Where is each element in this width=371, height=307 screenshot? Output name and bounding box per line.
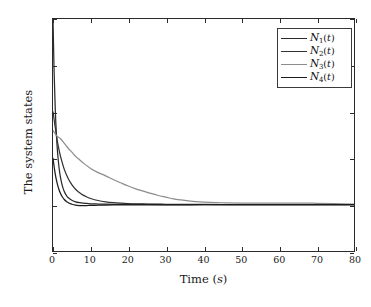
x-axis-title: Time (s) — [52, 272, 355, 286]
x-axis-title-text: Time ( — [180, 272, 217, 286]
legend-item-3: N3(t) — [281, 59, 347, 71]
legend-item-4: N4(t) — [281, 72, 347, 84]
legend-swatch-line-3 — [281, 64, 307, 65]
legend-swatch-line-2 — [281, 51, 307, 52]
legend-item-2: N2(t) — [281, 46, 347, 58]
legend: N1(t)N2(t)N3(t)N4(t) — [277, 28, 352, 88]
legend-item-1: N1(t) — [281, 33, 347, 45]
x-axis-title-close: ) — [223, 272, 228, 286]
legend-label-4: N4(t) — [310, 71, 335, 84]
legend-swatch-line-4 — [281, 77, 307, 78]
y-axis-title: The system states — [21, 62, 35, 222]
figure-canvas: 01020304050607080 20151050-5 Time (s) Th… — [0, 0, 371, 307]
legend-swatch-line-1 — [281, 38, 307, 39]
